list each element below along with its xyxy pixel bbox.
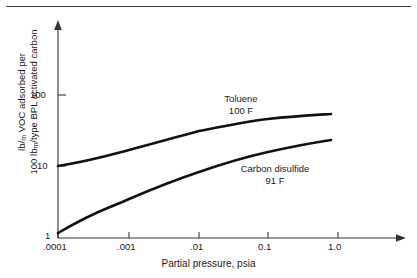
figure-container: 100 10 1 .0001 .001 .01 0.1 1.0 Partial … [0,0,417,278]
y-title-l2-a: 100 lb [28,149,39,175]
y-title-l2-b: /type BPL activated carbon [28,30,39,143]
annotation-cs2-name: Carbon disulfide [215,163,335,175]
x-tick-label-0001: .0001 [43,242,67,252]
x-axis [58,234,406,242]
annotation-cs2-temp: 91 F [215,175,335,187]
y-tick-marks [58,95,66,166]
annotation-toluene-temp: 100 F [196,105,286,117]
y-axis-title: lb/m VOC adsorbed per 100 lbm/type BPL a… [16,2,56,202]
x-tick-marks [58,232,338,238]
y-axis-title-line2: 100 lbm/type BPL activated carbon [28,2,40,202]
series-curve-toluene [58,114,331,166]
y-tick-label-1: 1 [45,231,50,241]
annotation-toluene: Toluene 100 F [196,93,286,117]
y-title-l1-a: lb/ [16,141,27,151]
x-tick-label-0-1: 0.1 [258,242,271,252]
y-title-l1-sub: m [20,135,27,141]
annotation-carbon-disulfide: Carbon disulfide 91 F [215,163,335,187]
x-tick-label-001: .001 [117,242,136,252]
y-title-l2-sub: m [33,143,40,149]
annotation-toluene-name: Toluene [196,93,286,105]
x-tick-label-1-0: 1.0 [328,242,341,252]
y-title-l1-b: VOC adsorbed per [16,53,27,135]
x-axis-title: Partial pressure, psia [0,258,417,269]
plot-area [0,0,417,278]
y-axis-title-line1: lb/m VOC adsorbed per [16,2,28,202]
x-axis-arrowhead [396,234,406,242]
x-tick-label-01: .01 [190,242,203,252]
